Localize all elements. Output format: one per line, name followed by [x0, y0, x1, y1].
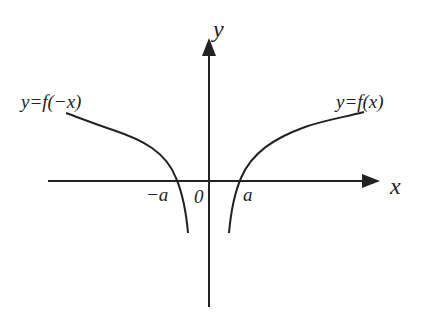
origin-label: 0 — [194, 186, 204, 207]
x-intercept-neg-a-label: −a — [146, 184, 168, 205]
x-intercept-a-label: a — [243, 184, 253, 205]
curve-label-f-x: y=f(x) — [334, 91, 384, 113]
curve-label-f-neg-x: y=f(−x) — [19, 91, 81, 113]
y-axis-label: y — [211, 16, 224, 42]
function-graph: y x 0 y=f(−x) y=f(x) −a a — [0, 0, 434, 319]
x-axis-label: x — [389, 173, 401, 199]
